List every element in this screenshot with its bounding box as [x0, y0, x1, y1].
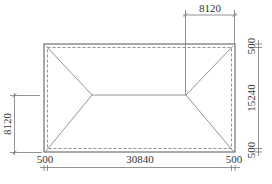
hip-line-top-right	[186, 46, 233, 95]
bottom-right-overhang-label: 500	[226, 153, 243, 165]
hip-line-top-left	[46, 46, 92, 95]
right-top-overhang-label: 500	[245, 37, 257, 54]
left-dimension: 8120	[1, 93, 42, 155]
wall-outline-dashed	[48, 48, 232, 149]
bottom-dimension-chain: 500 30840 500	[37, 153, 243, 171]
roof-outline	[44, 44, 235, 152]
top-dimension: 8120	[183, 2, 237, 95]
top-dimension-label: 8120	[199, 2, 222, 14]
bottom-length-label: 30840	[126, 153, 154, 165]
right-width-label: 15240	[245, 84, 257, 112]
roof-plan-drawing: 8120 8120 500 15240 500 500 30840 500	[0, 0, 272, 184]
hip-line-bottom-left	[46, 95, 92, 151]
right-bottom-overhang-label: 500	[245, 141, 257, 158]
hip-line-bottom-right	[186, 95, 233, 151]
right-dimension-chain: 500 15240 500	[245, 37, 262, 158]
left-dimension-label: 8120	[1, 113, 13, 136]
bottom-left-overhang-label: 500	[37, 153, 54, 165]
